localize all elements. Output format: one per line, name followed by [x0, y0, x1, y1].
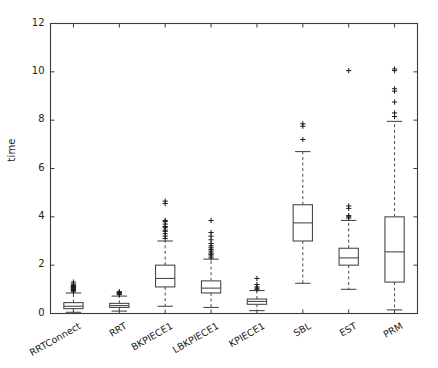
boxplot-rrt	[110, 289, 129, 311]
boxplot-lbkpiece1	[201, 218, 220, 308]
outlier-marker	[254, 282, 259, 287]
boxplot-sbl	[293, 121, 312, 283]
y-tick-label: 8	[19, 113, 45, 124]
outlier-marker	[163, 218, 168, 223]
y-tick-label: 12	[19, 17, 45, 28]
boxplot-rrtconnect	[64, 279, 83, 312]
boxplot-bkpiece1	[156, 199, 175, 307]
boxplot-prm	[385, 66, 404, 310]
outlier-marker	[392, 110, 397, 115]
box-iqr	[201, 281, 220, 293]
y-tick-label: 2	[19, 258, 45, 269]
box-iqr	[156, 265, 175, 287]
outlier-marker	[300, 137, 305, 142]
outlier-marker	[346, 213, 351, 218]
y-tick-label: 6	[19, 162, 45, 173]
box-iqr	[339, 248, 358, 265]
outlier-marker	[163, 199, 168, 204]
y-tick-label: 4	[19, 210, 45, 221]
outlier-marker	[392, 86, 397, 91]
outlier-marker	[346, 203, 351, 208]
y-tick-label: 10	[19, 65, 45, 76]
boxplot-est	[339, 68, 358, 289]
box-iqr	[385, 217, 404, 282]
box-iqr	[64, 303, 83, 309]
y-tick-label: 0	[19, 307, 45, 318]
outlier-marker	[208, 218, 213, 223]
outlier-marker	[208, 230, 213, 235]
outlier-marker	[254, 276, 259, 281]
boxplot-figure: time 024681012RRTConnectRRTBKPIECE1LBKPI…	[0, 0, 438, 368]
axes-frame	[51, 24, 418, 314]
outlier-marker	[392, 99, 397, 104]
boxplot-kpiece1	[247, 276, 266, 311]
plot-canvas	[0, 0, 438, 368]
outlier-marker	[300, 121, 305, 126]
outlier-marker	[346, 68, 351, 73]
